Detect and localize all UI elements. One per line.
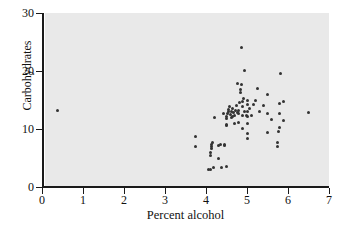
plot-area-background [45,13,329,187]
data-point [213,116,216,119]
data-point [233,122,236,125]
y-tick-label-30: 30 [22,7,34,19]
x-axis-label: Percent alcohol [42,208,329,223]
y-axis-line [42,13,44,188]
scatter-plot-figure: Carbohydrates Percent alcohol 0102030012… [0,0,337,227]
x-tick-label-3: 3 [155,194,175,206]
x-tick-label-4: 4 [196,194,216,206]
data-point [246,122,249,125]
y-tick-20 [36,71,43,72]
y-tick-10 [36,129,43,130]
data-point [279,72,282,75]
data-point [248,107,251,110]
data-point [246,132,249,135]
x-tick-label-6: 6 [278,194,298,206]
x-tick-label-1: 1 [73,194,93,206]
data-point [246,99,249,102]
data-point [246,110,249,113]
data-point [246,115,249,118]
data-point [217,157,220,160]
data-point [256,87,259,90]
data-point [266,131,269,134]
data-point [56,109,59,112]
x-tick-label-7: 7 [319,194,337,206]
y-tick-label-0: 0 [28,181,34,193]
data-point [225,115,228,118]
x-tick-label-2: 2 [114,194,134,206]
x-axis-line [42,186,329,188]
data-point [223,143,226,146]
data-point [225,123,228,126]
x-tick-label-5: 5 [237,194,257,206]
y-tick-30 [36,13,43,14]
data-point [242,97,245,100]
data-point [250,114,253,117]
data-point [239,91,242,94]
data-point [266,93,269,96]
data-point [254,99,257,102]
data-point [252,103,255,106]
data-point [233,114,236,117]
y-tick-label-10: 10 [22,123,34,135]
data-point [194,145,197,148]
data-point [258,110,261,113]
x-tick-label-0: 0 [32,194,52,206]
data-point [225,165,228,168]
data-point [246,103,249,106]
y-tick-label-20: 20 [22,65,34,77]
